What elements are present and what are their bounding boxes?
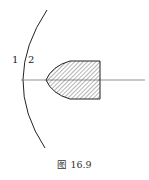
diagram-canvas bbox=[0, 0, 149, 180]
region-2-label: 2 bbox=[28, 54, 34, 65]
region-1-label: 1 bbox=[12, 54, 18, 65]
spherical-interface-arc bbox=[23, 10, 47, 148]
hatched-lens-body bbox=[46, 61, 100, 99]
figure-caption: 图 16.9 bbox=[0, 157, 149, 171]
